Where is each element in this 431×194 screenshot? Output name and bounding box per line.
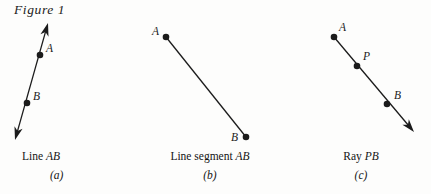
panel-letter-b: (b) <box>140 169 280 181</box>
point-label-a: A <box>45 42 54 54</box>
point-label-b: B <box>33 90 40 102</box>
panel-letter-c: (c) <box>291 169 431 181</box>
panel-line-segment-ab: AB Line segment AB (b) <box>140 0 280 194</box>
ray-stroke <box>334 37 409 127</box>
caption-line-ab: Line AB <box>0 150 60 162</box>
point-label-a: A <box>151 25 160 37</box>
panel-ray-pb: APB Ray PB (c) <box>291 0 431 194</box>
panel-letter-a: (a) <box>0 169 63 181</box>
point-a-dot <box>37 52 44 59</box>
caption-emphasis: AB <box>46 150 60 162</box>
ray-pb-diagram: APB <box>291 0 431 150</box>
point-label-b: B <box>231 131 238 143</box>
point-label-a: A <box>338 21 347 33</box>
point-b-dot <box>24 100 31 107</box>
line-stroke <box>17 30 46 133</box>
point-b-dot <box>384 101 391 108</box>
caption-line-segment-ab: Line segment AB <box>140 150 280 162</box>
line-segment-ab-diagram: AB <box>140 0 280 150</box>
caption-ray-pb: Ray PB <box>291 150 431 162</box>
point-b-dot <box>243 134 250 141</box>
point-label-p: P <box>362 50 370 62</box>
panel-line-ab: AB Line AB (a) <box>0 0 140 194</box>
figure-container: Figure 1 AB Line AB (a) AB Line segment … <box>0 0 431 194</box>
point-label-b: B <box>394 89 401 101</box>
caption-emphasis: PB <box>365 150 379 162</box>
point-p-dot <box>354 63 361 70</box>
segment-stroke <box>166 37 246 137</box>
line-ab-diagram: AB <box>0 0 140 150</box>
point-a-dot <box>331 34 338 41</box>
point-a-dot <box>163 34 170 41</box>
caption-emphasis: AB <box>236 150 250 162</box>
